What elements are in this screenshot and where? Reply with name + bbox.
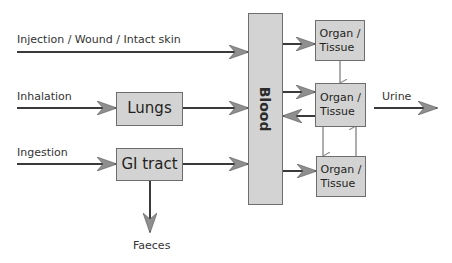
node-organ-tissue-1-label: Organ / Tissue	[320, 27, 361, 55]
node-organ-tissue-3: Organ / Tissue	[316, 156, 366, 197]
node-organ-tissue-3-label: Organ / Tissue	[321, 163, 362, 191]
label-ingestion: Ingestion	[17, 146, 68, 159]
label-injection: Injection / Wound / Intact skin	[17, 33, 181, 46]
label-urine: Urine	[382, 90, 411, 103]
node-organ-tissue-2: Organ / Tissue	[315, 83, 366, 127]
node-lungs: Lungs	[116, 92, 183, 126]
node-organ-tissue-2-label: Organ / Tissue	[320, 91, 361, 119]
node-gi-tract: GI tract	[116, 148, 183, 181]
node-lungs-label: Lungs	[127, 100, 171, 117]
node-gi-tract-label: GI tract	[121, 156, 177, 173]
label-inhalation: Inhalation	[17, 90, 72, 103]
node-blood: Blood	[248, 13, 283, 205]
node-organ-tissue-1: Organ / Tissue	[315, 20, 365, 61]
node-blood-label: Blood	[257, 87, 273, 132]
label-faeces: Faeces	[133, 239, 170, 252]
